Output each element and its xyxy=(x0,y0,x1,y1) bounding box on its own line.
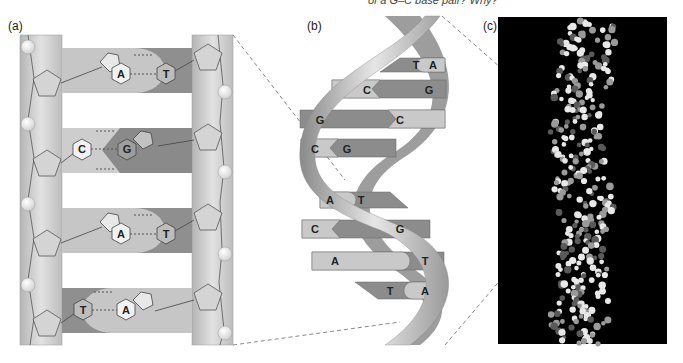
base-b-7-left: A xyxy=(331,255,339,267)
base-b-2-left: C xyxy=(363,84,371,96)
base-b-3-right: C xyxy=(396,114,404,126)
base-b-7-right: T xyxy=(422,255,429,267)
panel-a-ladder: A T C G A T T A xyxy=(20,35,233,345)
base-a-row3-left: A xyxy=(117,228,125,240)
base-b-3-left: G xyxy=(316,114,325,126)
base-a-row4-right: A xyxy=(122,304,130,316)
base-rings xyxy=(73,53,175,320)
base-b-1-left: T xyxy=(413,59,420,71)
base-a-row4-left: T xyxy=(80,304,87,316)
base-b-8-left: T xyxy=(387,285,394,297)
panel-c-space-filling-model xyxy=(498,17,667,346)
base-a-row2-right: G xyxy=(123,143,132,155)
base-b-4-left: C xyxy=(311,143,319,155)
base-b-8-right: A xyxy=(421,285,429,297)
dna-figure: A T C G A T T A xyxy=(0,0,683,363)
base-b-5-right: T xyxy=(358,194,365,206)
base-a-row1-left: A xyxy=(117,68,125,80)
base-a-row2-left: C xyxy=(78,143,86,155)
base-b-6-right: G xyxy=(396,223,405,235)
panel-b-helix: T A C G G C C G A T C G A T T A xyxy=(300,16,449,345)
base-b-5-left: A xyxy=(326,194,334,206)
base-a-row3-right: T xyxy=(163,228,170,240)
base-b-6-left: C xyxy=(311,223,319,235)
base-b-2-right: G xyxy=(425,84,434,96)
base-a-row1-right: T xyxy=(163,68,170,80)
base-b-4-right: G xyxy=(343,143,352,155)
base-b-1-right: A xyxy=(429,59,437,71)
